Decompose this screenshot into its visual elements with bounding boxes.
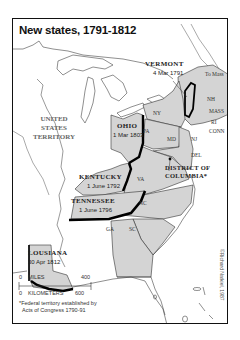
mississippi-river bbox=[37, 79, 65, 267]
label-dc-line1: DISTRICT OF bbox=[165, 165, 210, 172]
date-tennessee: 1 June 1796 bbox=[79, 207, 112, 213]
date-kentucky: 1 June 1792 bbox=[87, 183, 120, 189]
label-pa: PA bbox=[143, 129, 150, 135]
label-vermont: VERMONT bbox=[145, 61, 184, 68]
label-lousiana: LOUSIANA bbox=[28, 250, 67, 257]
label-del: DEL bbox=[191, 153, 202, 159]
scale-miles-label: MILES bbox=[28, 275, 45, 281]
lake-superior bbox=[57, 55, 113, 75]
label-va: VA bbox=[137, 177, 144, 183]
map-title: New states, 1791-1812 bbox=[19, 24, 136, 36]
credit: ©Richard Natkiel, 1987 bbox=[219, 249, 225, 301]
lake-michigan bbox=[81, 77, 95, 123]
territory-label: UNITED STATES TERRITORY bbox=[33, 115, 75, 141]
label-sc: SC bbox=[129, 227, 136, 233]
label-md: MD bbox=[167, 137, 176, 143]
label-to-mass: To Mass bbox=[205, 72, 224, 78]
label-nj: NJ bbox=[191, 137, 197, 143]
label-ohio: OHIO bbox=[117, 123, 137, 130]
scale-km-label: KILOMETERS bbox=[28, 291, 63, 297]
footnote: *Federal territory established by Acts o… bbox=[19, 300, 97, 314]
date-vermont: 4 Mar 1791 bbox=[153, 70, 183, 76]
scale-km-zero: 0 bbox=[19, 291, 22, 297]
map-frame: New states, 1791-1812 bbox=[12, 18, 228, 324]
label-ny: NY bbox=[153, 111, 161, 117]
florida bbox=[117, 277, 165, 315]
label-tennessee: TENNESSEE bbox=[71, 198, 115, 205]
lake-huron bbox=[101, 75, 127, 101]
date-ohio: 1 Mar 1803 bbox=[113, 132, 143, 138]
scale-miles-zero: 0 bbox=[19, 275, 22, 281]
label-dc-line2: COLUMBIA* bbox=[165, 173, 207, 180]
label-nc: NC bbox=[139, 201, 147, 207]
label-ga: GA bbox=[106, 227, 114, 233]
scale-miles-max: 400 bbox=[81, 275, 90, 281]
label-conn: CONN bbox=[209, 129, 225, 135]
scale-km-max: 600 bbox=[75, 291, 84, 297]
date-lousiana: 30 Apr 1812 bbox=[28, 259, 60, 265]
label-nh: NH bbox=[207, 97, 215, 103]
label-ri: RI bbox=[211, 120, 217, 126]
label-mass: MASS bbox=[209, 109, 224, 115]
label-kentucky: KENTUCKY bbox=[79, 174, 122, 181]
